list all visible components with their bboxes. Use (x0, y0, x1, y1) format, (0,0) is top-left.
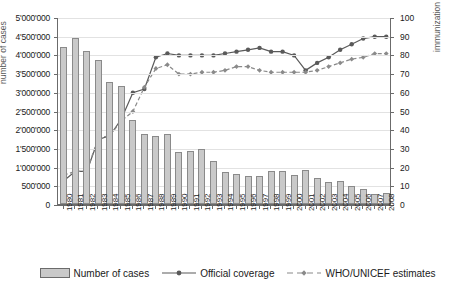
data-point-marker (246, 64, 251, 69)
x-tick-label: 1981 (77, 194, 85, 211)
data-point-marker (315, 61, 319, 65)
data-point-marker (257, 68, 262, 73)
x-tick-label: 1982 (89, 194, 97, 211)
x-axis-labels: 1980198119821983198419851986198719881989… (57, 206, 391, 266)
x-tick (305, 206, 306, 209)
y-tick-right (390, 186, 394, 187)
y-tick-label-left: 1'000'000 (15, 163, 50, 172)
legend-item-whounicef: WHO/UNICEF estimates (287, 268, 435, 279)
y-tick-right (390, 112, 394, 113)
y-axis-right-title: immunization coverage (%) (432, 0, 442, 52)
y-tick-label-right: 90 (400, 32, 409, 41)
x-tick (97, 206, 98, 209)
data-point-marker (338, 60, 343, 65)
x-tick (293, 206, 294, 209)
x-tick (224, 206, 225, 209)
y-tick-left (54, 168, 58, 169)
x-tick-label: 1998 (273, 194, 281, 211)
bar (118, 86, 125, 204)
x-tick (270, 206, 271, 209)
bar-swatch-icon (40, 268, 70, 278)
y-tick-left (54, 18, 58, 19)
x-tick-label: 1999 (285, 194, 293, 211)
y-tick-left (54, 55, 58, 56)
data-point-marker (234, 64, 239, 69)
x-tick-label: 2002 (319, 194, 327, 211)
gridline (58, 37, 390, 38)
legend-item-official: Official coverage (162, 268, 274, 279)
legend-label-official: Official coverage (200, 268, 274, 279)
y-tick-label-left: 4'000'000 (15, 51, 50, 60)
gridline (58, 74, 390, 75)
x-tick-label: 1983 (101, 194, 109, 211)
gridline (58, 55, 390, 56)
x-tick (316, 206, 317, 209)
y-tick-label-left: 3'500'000 (15, 70, 50, 79)
data-point-marker (338, 48, 342, 52)
y-tick-label-left: 0 (45, 201, 50, 210)
data-point-marker (246, 48, 250, 52)
y-tick-label-right: 70 (400, 70, 409, 79)
data-point-marker (257, 46, 261, 50)
y-tick-label-right: 60 (400, 89, 409, 98)
y-tick-label-right: 0 (400, 201, 405, 210)
x-tick (282, 206, 283, 209)
x-tick-label: 2004 (342, 194, 350, 211)
y-tick-label-left: 5'000'000 (15, 14, 50, 23)
y-tick-label-right: 80 (400, 51, 409, 60)
legend-label-cases: Number of cases (74, 268, 150, 279)
bar (129, 120, 136, 204)
x-tick-label: 2008 (388, 194, 396, 211)
data-point-marker (223, 68, 228, 73)
line-diamond-dashed-icon (287, 268, 321, 278)
bar (95, 60, 102, 204)
x-tick-label: 1984 (112, 194, 120, 211)
x-tick (247, 206, 248, 209)
bar (72, 38, 79, 204)
x-tick (143, 206, 144, 209)
x-tick-label: 1986 (135, 194, 143, 211)
legend-item-cases: Number of cases (40, 268, 150, 279)
data-point-marker (280, 49, 284, 53)
y-tick-left (54, 74, 58, 75)
x-tick-label: 1990 (181, 194, 189, 211)
y-tick-right (390, 93, 394, 94)
y-tick-label-left: 3'000'000 (15, 89, 50, 98)
x-tick-label: 1996 (250, 194, 258, 211)
x-tick (259, 206, 260, 209)
x-tick-label: 2000 (296, 194, 304, 211)
y-tick-right (390, 74, 394, 75)
x-tick-label: 2007 (377, 194, 385, 211)
y-axis-left-labels: 0500'0001'000'0001'500'0002'000'0002'500… (0, 18, 54, 205)
x-tick-label: 2003 (331, 194, 339, 211)
y-tick-left (54, 112, 58, 113)
x-tick-label: 1991 (193, 194, 201, 211)
x-tick-label: 1995 (239, 194, 247, 211)
x-tick (178, 206, 179, 209)
y-tick-label-right: 10 (400, 182, 409, 191)
x-tick (236, 206, 237, 209)
y-tick-label-right: 20 (400, 163, 409, 172)
x-tick (212, 206, 213, 209)
y-axis-right-labels: 0102030405060708090100 (393, 18, 427, 205)
x-tick-label: 1992 (204, 194, 212, 211)
line-circle-solid-icon (162, 268, 196, 278)
x-tick (351, 206, 352, 209)
bar (60, 47, 67, 204)
x-tick (328, 206, 329, 209)
x-tick-label: 1980 (66, 194, 74, 211)
plot-area (57, 18, 391, 205)
x-tick-label: 1993 (216, 194, 224, 211)
y-tick-label-left: 1'500'000 (15, 145, 50, 154)
y-tick-left (54, 130, 58, 131)
x-tick-label: 1994 (227, 194, 235, 211)
y-tick-label-left: 2'500'000 (15, 107, 50, 116)
x-tick-label: 1997 (262, 194, 270, 211)
y-tick-label-left: 500'000 (21, 182, 50, 191)
x-tick (109, 206, 110, 209)
x-tick (120, 206, 121, 209)
y-tick-label-right: 40 (400, 126, 409, 135)
x-tick (86, 206, 87, 209)
y-tick-right (390, 37, 394, 38)
chart-figure: number of cases immunization coverage (%… (0, 0, 475, 293)
